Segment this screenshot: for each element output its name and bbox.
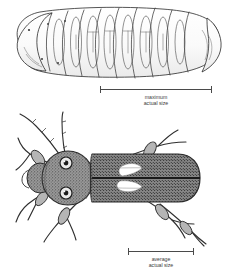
scale-bar-maximum-rule <box>100 86 212 93</box>
larva-figure <box>2 2 231 82</box>
beetle-drawing <box>10 108 225 248</box>
scale-bar-maximum: maximum actual size <box>100 86 212 106</box>
scale-bar-average-rule <box>128 248 194 255</box>
scale-bar-average-caption-line2: actual size <box>128 262 194 268</box>
scale-bar-average-cap-right <box>193 248 194 255</box>
beetle-figure <box>10 108 225 248</box>
illustration-plate: maximum actual size <box>0 0 233 275</box>
scale-bar-average-caption: average actual size <box>128 256 194 268</box>
scale-bar-maximum-caption-line2: actual size <box>100 100 212 106</box>
scale-bar-maximum-line <box>100 89 212 90</box>
scale-bar-maximum-cap-right <box>211 86 212 93</box>
scale-bar-average-line <box>128 251 194 252</box>
scale-bar-maximum-caption: maximum actual size <box>100 94 212 106</box>
larva-drawing <box>2 2 231 82</box>
scale-bar-average: average actual size <box>128 248 194 268</box>
